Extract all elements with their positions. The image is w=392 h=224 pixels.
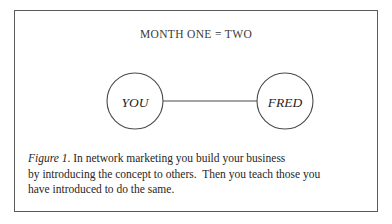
network-diagram-svg: YOU FRED	[15, 63, 379, 141]
diagram-title: MONTH ONE = TWO	[15, 28, 377, 40]
figure-caption: Figure 1. In network marketing you build…	[28, 151, 368, 198]
figure-frame: MONTH ONE = TWO YOU FRED Figure 1. In ne…	[14, 10, 378, 212]
caption-line-1-text: . In network marketing you build your bu…	[68, 152, 286, 164]
caption-line-2: by introducing the concept to others. Th…	[28, 167, 368, 183]
caption-line-3: have introduced to do the same.	[28, 182, 368, 198]
network-diagram: YOU FRED	[15, 63, 379, 141]
node-label-fred: FRED	[267, 95, 303, 110]
node-label-you: YOU	[121, 95, 149, 110]
caption-line-1: Figure 1. In network marketing you build…	[28, 151, 368, 167]
caption-figure-reference: Figure 1	[28, 152, 68, 164]
